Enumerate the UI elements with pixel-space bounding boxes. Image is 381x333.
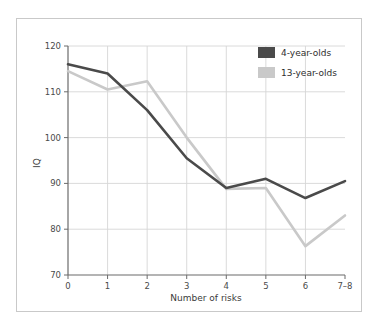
legend-swatch-4-year-olds (258, 47, 275, 58)
series-line-13-year-olds (68, 71, 345, 246)
y-tick-label: 90 (50, 178, 61, 188)
x-tick-label: 5 (263, 281, 268, 291)
chart-container: 708090100110120 01234567–8 Number of ris… (0, 0, 381, 333)
gridlines-vertical (108, 46, 306, 275)
x-axis-ticks: 01234567–8 (65, 275, 352, 291)
line-chart: 708090100110120 01234567–8 Number of ris… (0, 0, 381, 333)
y-tick-label: 100 (45, 133, 61, 143)
x-axis-title: Number of risks (170, 293, 242, 303)
legend: 4-year-olds 13-year-olds (258, 47, 337, 78)
y-axis-ticks: 708090100110120 (45, 41, 68, 280)
x-tick-label: 0 (65, 281, 70, 291)
y-tick-label: 120 (45, 41, 61, 51)
y-tick-label: 80 (50, 224, 61, 234)
x-tick-label: 4 (224, 281, 229, 291)
x-tick-label: 6 (303, 281, 308, 291)
legend-label-13-year-olds: 13-year-olds (281, 68, 337, 78)
series-line-4-year-olds (68, 64, 345, 198)
y-axis-title: IQ (32, 158, 42, 168)
x-tick-label: 2 (144, 281, 149, 291)
x-tick-label: 1 (105, 281, 110, 291)
y-tick-label: 70 (50, 270, 61, 280)
legend-label-4-year-olds: 4-year-olds (281, 48, 331, 58)
legend-swatch-13-year-olds (258, 67, 275, 78)
y-tick-label: 110 (45, 87, 61, 97)
x-tick-label: 3 (184, 281, 189, 291)
x-tick-label: 7–8 (337, 281, 352, 291)
